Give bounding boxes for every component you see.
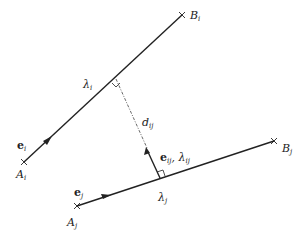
label-d-ij: dij [142, 117, 153, 130]
label-b-j: Bj [282, 143, 292, 156]
label-a-j: Aj [67, 217, 77, 230]
right-angle-i-icon [112, 83, 120, 87]
label-b-i: Bi [190, 10, 200, 23]
label-e-j: ej [74, 187, 83, 200]
diagram-canvas [0, 0, 307, 240]
endpoint-a-i-cross-icon [21, 159, 27, 165]
label-lambda-i: λi [83, 79, 92, 92]
endpoint-b-i-cross-icon [179, 12, 185, 18]
label-a-i: Ai [16, 169, 26, 182]
vector-e-ij-line [148, 152, 160, 178]
label-e-ij-lambda-ij: eij, λij [160, 152, 190, 165]
label-lambda-j: λj [158, 192, 167, 205]
label-e-i: ei [17, 140, 26, 153]
distance-d-ij-dashed-line [116, 79, 147, 148]
